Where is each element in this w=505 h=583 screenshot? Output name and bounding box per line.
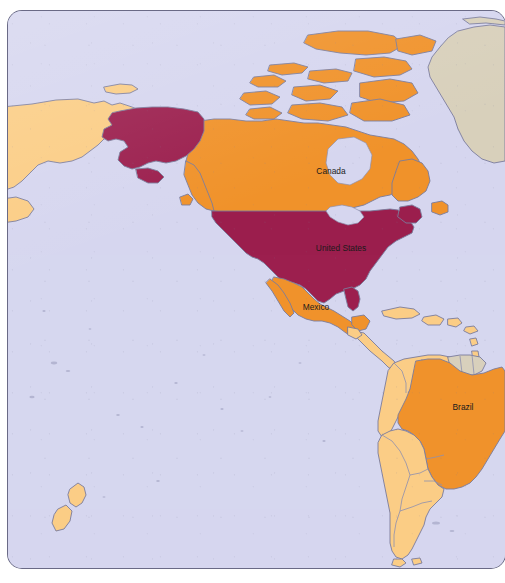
- label-mexico: Mexico: [303, 302, 330, 312]
- world-map-panel[interactable]: Canada United States Mexico Brazil: [8, 11, 505, 568]
- label-canada: Canada: [316, 166, 346, 176]
- label-united-states: United States: [316, 243, 366, 253]
- label-brazil: Brazil: [453, 402, 474, 412]
- screenshot-page: Canada United States Mexico Brazil: [0, 0, 505, 583]
- world-map-svg[interactable]: Canada United States Mexico Brazil: [8, 11, 505, 568]
